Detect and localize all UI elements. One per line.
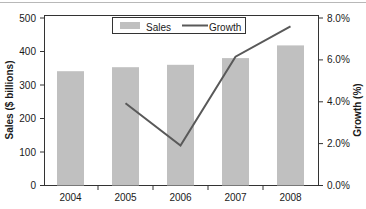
left-tick-label-0: 0 — [30, 180, 36, 191]
combo-chart: 500 400 300 200 100 0 Sales ($ billions)… — [0, 0, 366, 209]
bar-2004[interactable] — [57, 71, 84, 185]
x-tick-label-2004: 2004 — [59, 192, 82, 203]
legend-label-growth[interactable]: Growth — [209, 22, 241, 33]
left-axis-title: Sales ($ billions) — [4, 61, 15, 140]
x-tick-label-2006: 2006 — [169, 192, 192, 203]
left-tick-label-100: 100 — [19, 147, 36, 158]
bar-2005[interactable] — [112, 67, 139, 185]
left-tick-label-400: 400 — [19, 46, 36, 57]
legend-label-sales[interactable]: Sales — [146, 22, 171, 33]
x-tick-label-2007: 2007 — [224, 192, 247, 203]
chart-canvas: 500 400 300 200 100 0 Sales ($ billions)… — [0, 0, 366, 209]
right-axis-title: Growth (%) — [352, 83, 363, 136]
left-tick-label-500: 500 — [19, 13, 36, 24]
right-tick-label-6: 6.0% — [327, 54, 350, 65]
bar-2007[interactable] — [222, 58, 249, 185]
right-axis-ticks — [319, 18, 324, 186]
x-tick-label-2008: 2008 — [279, 192, 302, 203]
bar-2008[interactable] — [277, 45, 304, 185]
right-tick-label-2: 2.0% — [327, 138, 350, 149]
right-tick-label-8: 8.0% — [327, 13, 350, 24]
bottom-axis-ticks — [98, 186, 263, 191]
left-axis-ticks — [40, 18, 45, 186]
right-tick-label-0: 0.0% — [327, 180, 350, 191]
legend-swatch-sales[interactable] — [120, 22, 140, 29]
x-tick-label-2005: 2005 — [114, 192, 137, 203]
left-tick-label-300: 300 — [19, 80, 36, 91]
legend: Sales Growth — [113, 18, 246, 34]
left-tick-label-200: 200 — [19, 113, 36, 124]
right-tick-label-4: 4.0% — [327, 96, 350, 107]
bar-2006[interactable] — [167, 65, 194, 186]
